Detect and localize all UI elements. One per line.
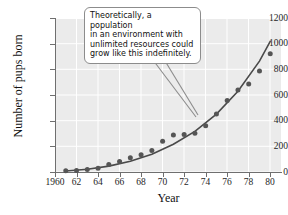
annotation-callout: Theoretically, a population in an enviro… — [84, 7, 201, 64]
x-tick-label: 64 — [88, 177, 108, 187]
x-tick-label: 68 — [131, 177, 151, 187]
y-tick-label: 1200 — [254, 14, 288, 24]
annotation-line: in an environment with — [90, 30, 195, 40]
y-tick-label: 400 — [254, 116, 288, 126]
x-tick-label: 62 — [67, 177, 87, 187]
y-tick-label: 1000 — [254, 39, 288, 49]
y-tick-label: 200 — [254, 142, 288, 152]
x-tick-label: 74 — [196, 177, 216, 187]
annotation-line: grow like this indefinitely. — [90, 49, 195, 59]
y-tick-label: 600 — [254, 91, 288, 101]
x-tick-label: 80 — [260, 177, 280, 187]
y-axis-line — [55, 18, 56, 173]
y-tick — [50, 121, 55, 122]
annotation-line: Theoretically, a population — [90, 11, 195, 30]
annotation-line: unlimited resources could — [90, 40, 195, 50]
x-tick-label: 72 — [174, 177, 194, 187]
x-tick-label: 1960 — [41, 177, 69, 187]
y-tick — [50, 18, 55, 19]
callout-tail-icon — [130, 55, 220, 130]
y-tick-label: 800 — [254, 65, 288, 75]
x-tick-label: 78 — [239, 177, 259, 187]
y-tick — [50, 95, 55, 96]
y-axis-title: Number of pups born — [12, 16, 24, 156]
y-tick — [50, 44, 55, 45]
y-tick — [50, 146, 55, 147]
x-tick-label: 66 — [110, 177, 130, 187]
y-tick-label: 0 — [254, 168, 288, 178]
x-axis-title: Year — [55, 192, 282, 204]
y-tick — [50, 69, 55, 70]
x-tick-label: 76 — [217, 177, 237, 187]
x-tick-label: 70 — [153, 177, 173, 187]
figure-scatter-plot: 0 200 400 600 800 1000 1200 1960 62 64 6… — [0, 0, 288, 215]
